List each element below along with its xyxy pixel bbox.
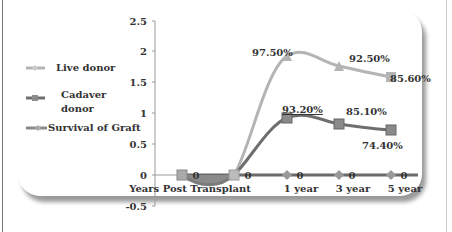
data-label: 85.60% (390, 73, 431, 84)
legend-label-live: Live donor (56, 62, 116, 73)
data-label: 85.10% (346, 106, 387, 117)
y-tick-label: -0.5 (125, 201, 147, 212)
data-label: 0 (401, 170, 408, 181)
data-label: 0 (193, 170, 200, 181)
data-label: 97.50% (252, 47, 293, 58)
legend-label-cadaver: donor (61, 103, 95, 114)
x-tick-label: 3 year (336, 183, 371, 194)
legend-label-cadaver: Cadaver (61, 89, 107, 100)
marker-graft (334, 170, 344, 180)
marker-cadaver (334, 119, 344, 129)
legend-marker-live (32, 65, 38, 71)
x-tick-label: 5 year (388, 183, 423, 194)
y-tick-label: 1 (140, 108, 147, 119)
y-tick-label: 0 (140, 170, 147, 181)
y-tick-label: 2 (140, 46, 147, 57)
data-label: 0 (245, 170, 252, 181)
x-tick-label: 1 year (284, 183, 319, 194)
line-chart: 2.5 2 1.5 1 0.5 0 -0.5 0 0 0 0 0 97.50% … (0, 0, 452, 232)
x-tick-labels: Years Post Transplant 1 year 3 year 5 ye… (128, 183, 423, 194)
data-label: 92.50% (349, 53, 390, 64)
data-label: 0 (297, 170, 304, 181)
x-tick-label: Years Post Transplant (128, 183, 251, 194)
legend-marker-graft (35, 125, 41, 131)
legend-marker-cadaver (32, 95, 38, 101)
legend-label-graft: Survival of Graft (48, 122, 141, 133)
marker-live (229, 170, 239, 180)
y-tick-label: 2.5 (130, 16, 147, 27)
data-label: 0 (349, 170, 356, 181)
marker-graft (282, 170, 292, 180)
data-label: 74.40% (362, 140, 403, 151)
y-tick-label: 1.5 (130, 77, 147, 88)
y-tick-label: 0.5 (130, 139, 147, 150)
marker-graft (386, 170, 396, 180)
marker-cadaver (386, 125, 396, 135)
data-label: 93.20% (282, 104, 323, 115)
marker-live (177, 170, 187, 180)
legend: Live donor Cadaver donor Survival of Gra… (26, 62, 141, 133)
